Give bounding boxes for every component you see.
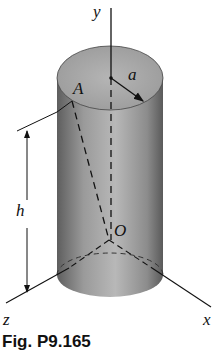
figure-caption: Fig. P9.165 (2, 333, 91, 350)
radius-label: a (128, 66, 137, 83)
height-label: h (16, 202, 25, 219)
origin-label: O (114, 222, 126, 239)
cylinder-body (57, 78, 163, 297)
point-a-label: A (73, 80, 83, 97)
dimension-leader-top (17, 112, 57, 131)
z-axis (6, 268, 69, 303)
top-center-dot (109, 76, 113, 80)
x-axis (152, 268, 211, 307)
y-axis-label: y (93, 3, 101, 20)
x-axis-label: x (203, 311, 211, 328)
z-axis-label: z (3, 311, 10, 328)
